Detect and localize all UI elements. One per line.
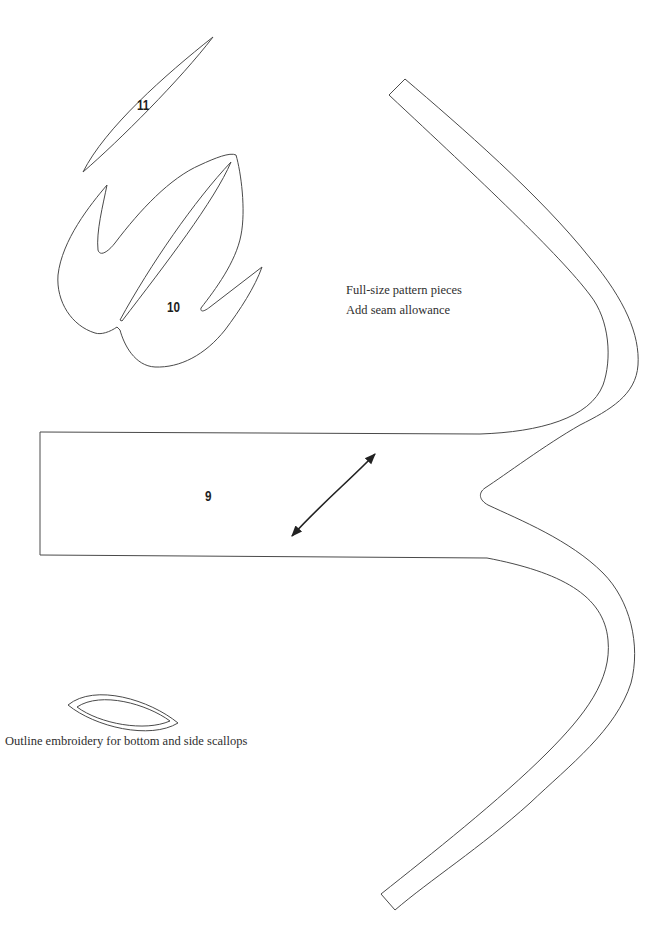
piece-9-outline	[40, 79, 638, 910]
embroidery-caption: Outline embroidery for bottom and side s…	[5, 735, 247, 748]
pattern-piece-10: 10	[58, 154, 262, 367]
pattern-sheet: 11 10 9	[0, 0, 668, 939]
pattern-piece-9: 9	[40, 79, 638, 910]
piece-10-label: 10	[167, 299, 180, 316]
note-seam-allowance: Add seam allowance	[346, 304, 450, 317]
piece-10-outline	[58, 154, 262, 367]
piece-10-slit	[120, 162, 231, 321]
grainline-arrow-icon	[292, 454, 375, 536]
embroidery-motif	[68, 695, 178, 731]
piece-11-label: 11	[137, 97, 150, 114]
embroidery-inner-outline	[77, 700, 170, 726]
embroidery-outer-outline	[68, 695, 178, 731]
note-full-size: Full-size pattern pieces	[346, 284, 462, 297]
pattern-piece-11: 11	[83, 37, 213, 172]
piece-9-label: 9	[205, 488, 212, 505]
